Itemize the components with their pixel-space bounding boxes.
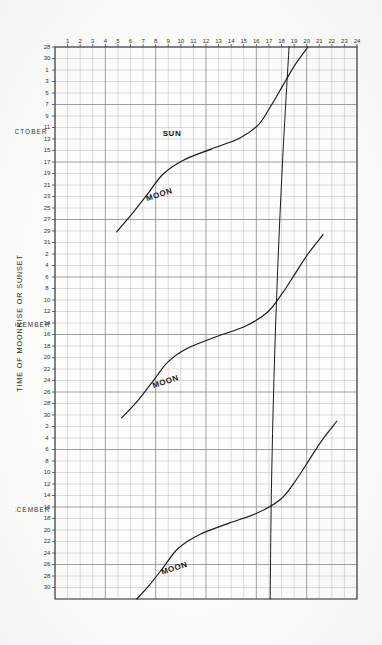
x-tick-label: 18: [44, 342, 51, 348]
y-tick-label: 11: [190, 37, 197, 43]
x-tick-label: 7: [45, 101, 49, 107]
y-tick-label: 6: [129, 37, 133, 43]
month-label: OCTOBER: [15, 128, 48, 135]
data-series-layer: [117, 47, 337, 599]
x-tick-label: 8: [45, 285, 49, 291]
x-tick-label: 6: [45, 446, 49, 452]
x-tick-label: 18: [44, 515, 51, 521]
curve-label-moon-december: MOON: [160, 559, 189, 576]
x-tick-label: 28: [44, 400, 51, 406]
x-tick-label: 22: [44, 365, 51, 371]
x-tick-label: 10: [44, 296, 51, 302]
grid-major: [55, 47, 357, 599]
series-line-sun: [270, 47, 289, 599]
rotated-figure-wrapper: 123456789101112131415161718192021222324 …: [15, 21, 367, 625]
x-tick-label: 14: [44, 492, 51, 498]
y-tick-label: 9: [167, 37, 171, 43]
series-line-moon-2: [122, 234, 323, 417]
x-tick-label: 4: [45, 434, 49, 440]
y-tick-label: 1: [66, 37, 70, 43]
y-tick-label: 4: [104, 37, 108, 43]
x-tick-label: 19: [44, 170, 51, 176]
x-tick-label: 24: [44, 549, 51, 555]
x-tick-label: 13: [44, 135, 51, 141]
x-tick-label: 20: [44, 354, 51, 360]
x-tick-label: 5: [45, 89, 49, 95]
x-tick-label: 21: [44, 181, 51, 187]
curve-labels: MOONMOONMOONSUN: [145, 129, 189, 576]
x-tick-label: 3: [45, 78, 49, 84]
x-tick-label: 30: [44, 411, 51, 417]
x-tick-label: 23: [44, 193, 51, 199]
x-tick-label: 17: [44, 158, 51, 164]
x-tick-label: 6: [45, 273, 49, 279]
y-tick-label: 7: [141, 37, 145, 43]
curve-label-sun: SUN: [163, 129, 182, 138]
x-tick-label: 28: [44, 43, 51, 49]
x-tick-label: 25: [44, 204, 51, 210]
axis-title-caption: TIME OF MOONRISE OR SUNSET: [15, 254, 24, 392]
y-tick-label: 19: [291, 37, 298, 43]
y-tick-label: 8: [154, 37, 158, 43]
y-tick-label: 13: [215, 37, 222, 43]
x-tick-label: 31: [44, 239, 51, 245]
moonrise-sunset-chart: 123456789101112131415161718192021222324 …: [15, 21, 367, 625]
x-tick-label: 10: [44, 469, 51, 475]
curve-label-moon-october: MOON: [145, 186, 174, 203]
x-tick-label: 1: [45, 66, 49, 72]
x-tick-label: 26: [44, 388, 51, 394]
x-tick-label: 2: [45, 423, 49, 429]
y-tick-label: 3: [91, 37, 95, 43]
x-tick-label: 30: [44, 55, 51, 61]
y-tick-label: 14: [228, 37, 235, 43]
scanned-page: 123456789101112131415161718192021222324 …: [0, 0, 382, 645]
y-tick-label: 5: [116, 37, 120, 43]
y-tick-label: 18: [278, 37, 285, 43]
y-tick-label: 17: [266, 37, 273, 43]
x-tick-label: 28: [44, 572, 51, 578]
x-tick-label: 22: [44, 538, 51, 544]
y-tick-label: 15: [240, 37, 247, 43]
x-tick-label: 8: [45, 457, 49, 463]
x-tick-label: 12: [44, 480, 51, 486]
y-tick-label: 12: [203, 37, 210, 43]
x-tick-label: 15: [44, 147, 51, 153]
x-tick-label: 24: [44, 377, 51, 383]
x-tick-label: 12: [44, 308, 51, 314]
y-tick-label: 22: [328, 37, 335, 43]
x-tick-label: 20: [44, 526, 51, 532]
y-tick-label: 20: [303, 37, 310, 43]
y-tick-label: 24: [354, 37, 361, 43]
x-tick-label: 9: [45, 112, 49, 118]
x-tick-label: 4: [45, 262, 49, 268]
x-tick-label: 29: [44, 227, 51, 233]
y-tick-label: 21: [316, 37, 323, 43]
y-tick-label: 10: [177, 37, 184, 43]
x-tick-label: 30: [44, 584, 51, 590]
y-axis-ticks: 123456789101112131415161718192021222324: [66, 37, 361, 46]
chart-figure: 123456789101112131415161718192021222324 …: [15, 21, 367, 625]
x-tick-label: 16: [44, 331, 51, 337]
y-tick-label: 23: [341, 37, 348, 43]
y-tick-label: 2: [78, 37, 82, 43]
x-tick-label: 27: [44, 216, 51, 222]
month-label: DECEMBER: [15, 506, 51, 513]
x-tick-label: 26: [44, 561, 51, 567]
x-tick-label: 2: [45, 250, 49, 256]
y-tick-label: 16: [253, 37, 260, 43]
